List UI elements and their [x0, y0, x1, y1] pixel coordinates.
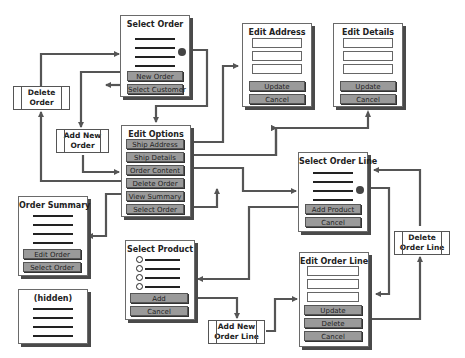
option-line [145, 286, 180, 288]
option-line [145, 259, 180, 261]
cancel-button[interactable]: Cancel [340, 94, 396, 104]
list-line [313, 181, 353, 183]
order-line-field-1[interactable] [307, 266, 359, 276]
selection-dot-icon [178, 48, 186, 56]
ship-details-button[interactable]: Ship Details [126, 152, 184, 162]
screen-edit-order-line: Edit Order Line Update Delete Cancel [299, 252, 369, 347]
screen-edit-options: Edit Options Ship Address Ship Details O… [121, 125, 191, 217]
update-button[interactable]: Update [340, 81, 396, 91]
screen-order-summary: Order Summary Edit Order Select Order [18, 196, 88, 276]
cancel-button[interactable]: Cancel [249, 94, 305, 104]
list-line [33, 224, 73, 226]
view-summary-button[interactable]: View Summary [126, 191, 184, 201]
list-line [135, 38, 175, 40]
list-line [33, 233, 73, 235]
add-button[interactable]: Add [130, 293, 188, 303]
screen-select-order: Select Order New Order Select Customer [120, 15, 190, 97]
process-delete-order-line: DeleteOrder Line [394, 231, 450, 255]
select-customer-button[interactable]: Select Customer [127, 84, 183, 94]
list-line [313, 190, 353, 192]
cancel-button[interactable]: Cancel [130, 306, 188, 316]
screen-edit-details: Edit Details Update Cancel [333, 23, 403, 107]
add-product-button[interactable]: Add Product [305, 204, 361, 214]
cancel-button[interactable]: Cancel [305, 217, 361, 227]
update-button[interactable]: Update [304, 305, 362, 315]
radio-option-icon[interactable] [136, 274, 143, 281]
list-line [313, 199, 353, 201]
select-order-button[interactable]: Select Order [23, 262, 81, 272]
radio-option-icon[interactable] [136, 265, 143, 272]
list-line [135, 65, 175, 67]
details-field-2[interactable] [343, 51, 393, 61]
screen-title: Select Order [121, 20, 189, 30]
details-field-3[interactable] [343, 64, 393, 74]
radio-option-icon[interactable] [136, 256, 143, 263]
screen-select-product: Select Product Add Cancel [125, 240, 195, 320]
delete-order-button[interactable]: Delete Order [126, 178, 184, 188]
list-line [33, 242, 73, 244]
process-add-new-order: Add NewOrder [56, 129, 109, 153]
list-line [33, 308, 73, 310]
screen-title: Edit Details [334, 28, 402, 38]
list-line [33, 335, 73, 337]
list-line [33, 326, 73, 328]
radio-option-icon[interactable] [136, 283, 143, 290]
cancel-button[interactable]: Cancel [304, 331, 362, 341]
screen-select-order-line: Select Order Line Add Product Cancel [298, 152, 368, 232]
address-field-2[interactable] [252, 51, 302, 61]
ship-address-button[interactable]: Ship Address [126, 139, 184, 149]
details-field-1[interactable] [343, 38, 393, 48]
update-button[interactable]: Update [249, 81, 305, 91]
address-field-3[interactable] [252, 64, 302, 74]
delete-button[interactable]: Delete [304, 318, 362, 328]
screen-title: Order Summary [19, 201, 87, 211]
list-line [135, 56, 175, 58]
process-delete-order: DeleteOrder [13, 86, 70, 110]
new-order-button[interactable]: New Order [127, 71, 183, 81]
selection-dot-icon [356, 186, 364, 194]
order-line-field-2[interactable] [307, 279, 359, 289]
order-content-button[interactable]: Order Content [126, 165, 184, 175]
screen-title: Select Order Line [299, 157, 367, 167]
order-line-field-3[interactable] [307, 292, 359, 302]
list-line [135, 47, 175, 49]
screen-title: (hidden) [19, 294, 87, 304]
option-line [145, 268, 180, 270]
list-line [313, 172, 353, 174]
screen-hidden: (hidden) [18, 289, 88, 344]
screen-title: Edit Address [243, 28, 311, 38]
option-line [145, 277, 180, 279]
process-add-new-order-line: Add NewOrder Line [208, 320, 265, 344]
edit-order-button[interactable]: Edit Order [23, 249, 81, 259]
screen-title: Select Product [126, 245, 194, 255]
list-line [33, 317, 73, 319]
address-field-1[interactable] [252, 38, 302, 48]
select-order-button[interactable]: Select Order [126, 204, 184, 214]
screen-edit-address: Edit Address Update Cancel [242, 23, 312, 107]
list-line [33, 215, 73, 217]
